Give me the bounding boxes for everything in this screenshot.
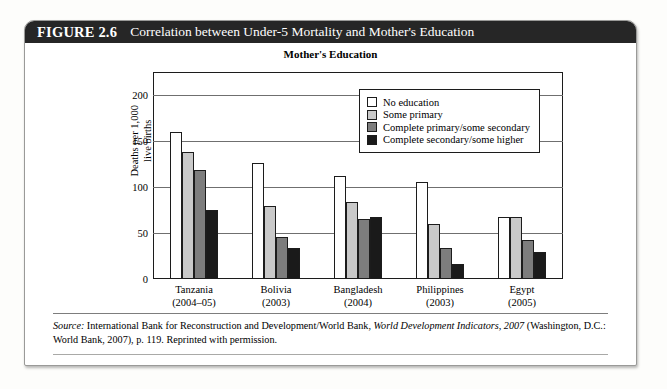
y-tick-label-50: 50 xyxy=(138,228,149,239)
chart-title: Mother's Education xyxy=(25,48,636,60)
source-divider-top xyxy=(53,313,608,314)
figure-frame: FIGURE 2.6 Correlation between Under-5 M… xyxy=(24,20,637,366)
chart-legend: No educationSome primaryComplete primary… xyxy=(359,89,540,153)
legend-swatch-icon xyxy=(367,97,377,107)
y-tick-label-0: 0 xyxy=(143,274,148,285)
x-label-country: Tanzania xyxy=(175,284,213,295)
x-axis-label: Egypt(2005) xyxy=(508,283,536,309)
legend-item: Some primary xyxy=(367,109,530,120)
legend-swatch-icon xyxy=(367,122,377,132)
source-note: Source: International Bank for Reconstru… xyxy=(53,319,612,347)
legend-swatch-icon xyxy=(367,110,377,120)
x-label-year: (2004) xyxy=(334,296,383,309)
x-label-country: Philippines xyxy=(416,284,463,295)
y-axis-title: Deaths per 1,000 live births xyxy=(129,66,155,216)
x-label-year: (2004–05) xyxy=(172,296,216,309)
gridline-100 xyxy=(153,187,563,188)
source-divider-bottom xyxy=(53,354,608,355)
legend-label: Some primary xyxy=(383,109,443,120)
source-text-part1: International Bank for Reconstruction an… xyxy=(84,320,373,331)
figure-header-bar: FIGURE 2.6 Correlation between Under-5 M… xyxy=(25,21,636,43)
x-label-country: Egypt xyxy=(509,284,534,295)
chart-plot-region: 050100150200 Deaths per 1,000 live birth… xyxy=(153,72,563,279)
legend-label: No education xyxy=(383,97,439,108)
source-label: Source: xyxy=(53,320,84,331)
legend-label: Complete secondary/some higher xyxy=(383,134,524,145)
figure-number: FIGURE 2.6 xyxy=(37,24,117,41)
x-label-year: (2005) xyxy=(508,296,536,309)
x-label-country: Bolivia xyxy=(261,284,292,295)
x-label-country: Bangladesh xyxy=(334,284,383,295)
x-axis-label: Philippines(2003) xyxy=(416,283,463,309)
x-axis-label: Tanzania(2004–05) xyxy=(172,283,216,309)
x-axis-label: Bangladesh(2004) xyxy=(334,283,383,309)
x-label-year: (2003) xyxy=(416,296,463,309)
source-publication-title: World Development Indicators, 2007 xyxy=(373,320,524,331)
legend-label: Complete primary/some secondary xyxy=(383,122,530,133)
legend-item: Complete primary/some secondary xyxy=(367,122,530,133)
figure-title: Correlation between Under-5 Mortality an… xyxy=(130,24,474,40)
legend-item: No education xyxy=(367,97,530,108)
gridline-50 xyxy=(153,233,563,234)
x-axis-label: Bolivia(2003) xyxy=(261,283,292,309)
x-label-year: (2003) xyxy=(261,296,292,309)
legend-swatch-icon xyxy=(367,135,377,145)
legend-item: Complete secondary/some higher xyxy=(367,134,530,145)
